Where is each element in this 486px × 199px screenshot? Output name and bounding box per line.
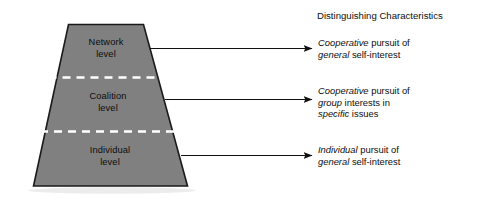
characteristic-line: general self-interest [318,156,486,168]
diagram-canvas: Network level Coalition level Individual… [0,0,486,199]
characteristic-emphasis: general [318,49,349,60]
characteristic-line: specific issues [318,108,486,120]
characteristic-individual: Individual pursuit ofgeneral self-intere… [318,144,486,167]
characteristic-text: pursuit of [369,37,410,48]
characteristic-line: group interests in [318,97,486,109]
characteristic-text: pursuit of [358,144,399,155]
characteristic-line: Individual pursuit of [318,144,486,156]
characteristic-text: self-interest [349,49,400,60]
characteristic-text: interests in [342,97,390,108]
characteristic-emphasis: group [318,97,342,108]
pyramid-level-network: Network level [58,37,154,60]
pyramid-level-network-line-1: Network [58,37,154,49]
pyramid-level-coalition-line-2: level [53,103,163,115]
characteristic-emphasis: Cooperative [318,85,369,96]
characteristic-line: Cooperative pursuit of [318,37,486,49]
pyramid-level-coalition: Coalition level [53,91,163,114]
pyramid-level-individual: Individual level [48,145,172,168]
pyramid-level-network-line-2: level [58,49,154,61]
pyramid-level-coalition-line-1: Coalition [53,91,163,103]
pyramid-level-individual-line-1: Individual [48,145,172,157]
characteristic-emphasis: Cooperative [318,37,369,48]
characteristic-emphasis: general [318,156,349,167]
characteristic-emphasis: Individual [318,144,358,155]
characteristic-emphasis: specific [318,108,349,119]
characteristics-heading: Distinguishing Characteristics [317,10,443,22]
base-shadow [28,187,196,193]
characteristic-text: pursuit of [369,85,410,96]
characteristic-coalition: Cooperative pursuit ofgroup interests in… [318,85,486,120]
characteristic-text: self-interest [349,156,400,167]
characteristic-line: general self-interest [318,49,486,61]
pyramid-level-individual-line-2: level [48,157,172,169]
characteristic-network: Cooperative pursuit ofgeneral self-inter… [318,37,486,60]
characteristic-line: Cooperative pursuit of [318,85,486,97]
characteristics-panel: Distinguishing Characteristics Cooperati… [317,0,486,199]
characteristic-text: issues [349,108,378,119]
